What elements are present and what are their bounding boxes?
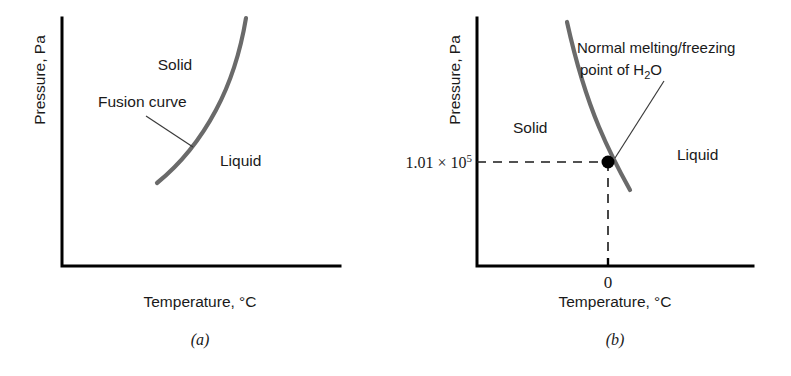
panel-b-annotation-line1: Normal melting/freezing [577,39,735,56]
panel-a-fusion-curve-label: Fusion curve [98,93,187,110]
panel-b-pressure-tick-label: 1.01 × 105 [405,152,472,171]
panel-b-pressure-tick-mantissa: 1.01 × 10 [405,154,466,171]
panel-a-x-axis-title: Temperature, °C [143,293,256,310]
panel-b-pressure-tick-exponent: 5 [467,152,473,164]
panel-b-caption: (b) [606,331,625,349]
panel-a: Solid Fusion curve Liquid Pressure, Pa T… [0,0,396,376]
phase-diagram-figure: Solid Fusion curve Liquid Pressure, Pa T… [0,0,791,376]
panel-a-solid-label: Solid [158,56,192,73]
panel-b-x-axis-title: Temperature, °C [558,293,671,310]
panel-b: Solid Liquid Normal melting/freezing poi… [396,0,791,376]
panel-b-melting-point-dot [602,156,615,169]
panel-b-annotation-leader-line [615,81,664,158]
panel-b-y-axis-title: Pressure, Pa [446,35,463,125]
panel-a-caption: (a) [191,331,210,349]
panel-b-solid-label: Solid [513,119,547,136]
panel-a-liquid-label: Liquid [220,152,261,169]
panel-a-y-axis-title: Pressure, Pa [31,35,48,125]
panel-b-annotation-line2: point of H2O [580,61,662,81]
panel-b-annotation-line2-post: O [650,61,662,78]
panel-b-liquid-label: Liquid [677,146,718,163]
panel-a-curve-leader-line [146,116,193,147]
panel-b-annotation-line2-pre: point of H [580,61,644,78]
panel-a-axes [62,18,340,266]
panel-b-temperature-tick-label: 0 [604,273,613,292]
